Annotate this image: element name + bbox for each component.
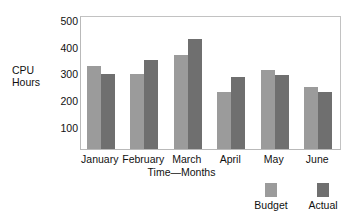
bar-budget [174,55,188,149]
x-axis-category-label: February [122,152,164,166]
x-axis-category-label: May [264,152,284,166]
legend: BudgetActual [248,183,348,221]
y-axis-tick-labels: 100200300400500 [50,0,78,223]
bar-group [261,17,289,149]
y-axis-tick-label: 500 [50,16,78,27]
bar-actual [144,60,158,149]
bar-budget [261,70,275,149]
bar-group [130,17,158,149]
y-axis-tick-label: 300 [50,69,78,80]
x-axis-category-label: January [81,152,118,166]
legend-swatch-actual [317,183,329,197]
bar-budget [304,87,318,149]
bar-budget [87,66,101,149]
bar-budget [217,92,231,149]
bar-group [87,17,115,149]
y-axis-tick-label: 100 [50,122,78,133]
plot-inner [81,17,340,149]
plot-area [80,16,341,150]
legend-entry-actual: Actual [300,183,346,211]
bar-actual [101,74,115,150]
bar-actual [188,39,202,149]
bar-budget [130,74,144,150]
bar-actual [318,92,332,149]
legend-label-actual: Actual [300,199,346,211]
y-axis-tick-label: 400 [50,42,78,53]
bar-group [174,17,202,149]
x-axis-category-label: June [306,152,329,166]
bar-actual [231,77,245,149]
legend-swatch-budget [265,183,277,197]
x-axis-category-label: March [172,152,201,166]
bar-chart: CPU Hours 100200300400500 JanuaryFebruar… [0,0,353,223]
legend-label-budget: Budget [248,199,294,211]
bar-actual [275,75,289,149]
bar-group [217,17,245,149]
y-axis-tick-label: 200 [50,96,78,107]
bar-group [304,17,332,149]
x-axis-category-label: April [220,152,241,166]
x-axis-title: Time—Months [0,166,353,179]
legend-entry-budget: Budget [248,183,294,211]
